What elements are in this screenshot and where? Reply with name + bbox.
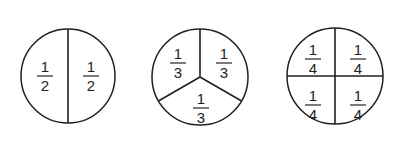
fraction-circles-figure: 1 2 1 2 1 3 — [0, 0, 413, 143]
fraction-numerator: 1 — [309, 87, 317, 104]
fraction-denominator: 2 — [87, 77, 95, 94]
fraction-numerator: 1 — [174, 45, 182, 62]
fraction-denominator: 3 — [174, 64, 182, 81]
fraction-numerator: 1 — [309, 41, 317, 58]
circle-fourths: 1 4 1 4 1 4 1 4 — [287, 28, 383, 124]
fraction-numerator: 1 — [220, 45, 228, 62]
fraction-denominator: 3 — [197, 109, 205, 126]
fraction-numerator: 1 — [41, 58, 49, 75]
circle-thirds: 1 3 1 3 1 3 — [152, 29, 248, 126]
fraction-numerator: 1 — [197, 90, 205, 107]
fraction-circles-canvas: 1 2 1 2 1 3 — [0, 0, 413, 143]
fraction-denominator: 4 — [309, 106, 317, 123]
fraction-denominator: 3 — [220, 64, 228, 81]
fraction-numerator: 1 — [354, 41, 362, 58]
fraction-denominator: 4 — [309, 60, 317, 77]
fraction-numerator: 1 — [87, 58, 95, 75]
fraction-denominator: 4 — [354, 106, 362, 123]
fraction-denominator: 2 — [41, 77, 49, 94]
fraction-numerator: 1 — [354, 87, 362, 104]
circle-halves: 1 2 1 2 — [21, 29, 115, 123]
fraction-denominator: 4 — [354, 60, 362, 77]
